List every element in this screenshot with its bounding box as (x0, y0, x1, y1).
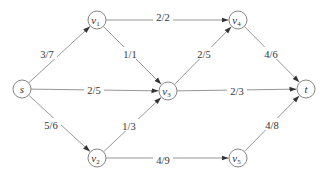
edge-label: 2/5 (194, 47, 214, 60)
edge-label: 4/6 (261, 47, 281, 60)
edge-label: 5/6 (41, 118, 61, 131)
edge-flow-capacity-label: 4/6 (264, 49, 277, 60)
edge-flow-capacity-label: 3/7 (40, 49, 53, 60)
edge-label: 2/3 (227, 84, 247, 97)
edge-label: 4/8 (262, 118, 282, 131)
edge-flow-capacity-label: 2/3 (230, 86, 243, 97)
node-v1: v1 (88, 11, 106, 29)
node-v3: v3 (159, 82, 177, 100)
edge-flow-capacity-label: 4/8 (265, 120, 278, 131)
edge-flow-capacity-label: 2/5 (197, 49, 210, 60)
node-v5: v5 (229, 149, 247, 167)
edge-label: 4/9 (153, 153, 173, 166)
edge-flow-capacity-label: 2/2 (156, 12, 169, 23)
edge-label: 1/3 (119, 119, 139, 132)
edge-label: 1/1 (120, 47, 140, 60)
edge-flow-capacity-label: 4/9 (156, 155, 169, 166)
node-t: t (297, 80, 315, 98)
edge-label: 2/2 (153, 10, 173, 23)
node-s: s (13, 80, 31, 98)
edge-flow-capacity-label: 1/1 (123, 49, 136, 60)
edge-label: 2/5 (84, 83, 104, 96)
node-v4: v4 (229, 11, 247, 29)
edge-flow-capacity-label: 1/3 (122, 121, 135, 132)
flow-network-diagram: 3/72/55/62/21/11/34/92/52/34/64/8 sv1v2v… (0, 0, 327, 179)
nodes-group: sv1v2v3v4v5t (13, 11, 315, 167)
edge-label: 3/7 (37, 47, 57, 60)
node-v2: v2 (88, 149, 106, 167)
edge-flow-capacity-label: 2/5 (87, 85, 100, 96)
edge-flow-capacity-label: 5/6 (44, 120, 57, 131)
node-label: s (20, 83, 24, 95)
